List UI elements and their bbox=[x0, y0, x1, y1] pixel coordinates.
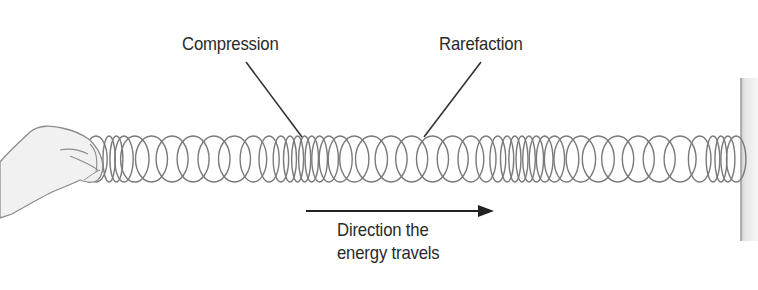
rarefaction-label: Rarefaction bbox=[439, 33, 523, 55]
hand-icon bbox=[0, 126, 103, 218]
spring-coil bbox=[219, 136, 251, 182]
direction-caption-line-2: energy travels bbox=[337, 241, 440, 264]
spring-coil bbox=[396, 136, 428, 182]
slinky-spring bbox=[85, 136, 746, 182]
spring-coil bbox=[566, 136, 595, 182]
spring-coil bbox=[273, 136, 288, 182]
spring-coil bbox=[259, 136, 279, 182]
spring-coil bbox=[437, 136, 468, 182]
spring-coil bbox=[622, 136, 654, 182]
spring-coil bbox=[340, 136, 369, 182]
spring-coil bbox=[240, 136, 267, 182]
spring-coil bbox=[582, 136, 614, 182]
spring-coil bbox=[602, 136, 634, 182]
spring-coil bbox=[356, 136, 388, 182]
spring-coil bbox=[643, 136, 675, 182]
compression-label: Compression bbox=[182, 33, 279, 55]
spring-coil bbox=[177, 136, 209, 182]
wall bbox=[741, 78, 758, 241]
spring-coil bbox=[706, 136, 720, 182]
spring-coil bbox=[284, 136, 297, 182]
spring-coil bbox=[509, 136, 521, 182]
spring-coil bbox=[136, 136, 168, 182]
spring-coil bbox=[490, 136, 506, 182]
spring-coil bbox=[103, 136, 115, 182]
direction-arrow bbox=[306, 205, 494, 217]
spring-coil bbox=[156, 136, 188, 182]
spring-coil bbox=[721, 136, 735, 182]
spring-coil bbox=[198, 136, 230, 182]
spring-coil bbox=[292, 136, 304, 182]
spring-coil bbox=[458, 136, 484, 182]
spring-coil bbox=[375, 136, 407, 182]
spring-coil bbox=[476, 136, 496, 182]
compression-leader-line bbox=[246, 62, 302, 137]
direction-caption: Direction the energy travels bbox=[337, 218, 440, 264]
direction-caption-line-1: Direction the bbox=[337, 218, 440, 241]
spring-coil bbox=[417, 136, 449, 182]
rarefaction-leader-line bbox=[424, 62, 481, 137]
spring-coil bbox=[501, 136, 514, 182]
